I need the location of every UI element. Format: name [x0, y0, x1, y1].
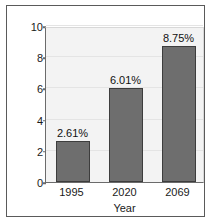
bar-1995 [56, 141, 90, 182]
bar-2020 [109, 88, 143, 182]
y-tick-label: 4 [17, 115, 43, 126]
x-tick-label: 2069 [152, 186, 204, 199]
y-tick-label: 10 [17, 22, 43, 33]
plot-area: 2.61%6.01%8.75% [45, 27, 204, 183]
y-tick-label: 2 [17, 146, 43, 157]
y-tick-label: 6 [17, 84, 43, 95]
y-tick-label: 0 [17, 178, 43, 189]
chart-figure: 0246810 2.61%6.01%8.75% 199520202069 Yea… [0, 0, 211, 223]
gridline [46, 25, 203, 26]
bar-value-label: 2.61% [47, 127, 99, 139]
x-axis: 199520202069 [45, 186, 204, 202]
bar-value-label: 6.01% [100, 74, 152, 86]
x-axis-title: Year [45, 202, 204, 215]
bar-2069 [162, 46, 196, 183]
x-tick-label: 1995 [46, 186, 98, 199]
y-axis: 0246810 [13, 27, 43, 183]
x-tick-label: 2020 [99, 186, 151, 199]
bar-value-label: 8.75% [153, 32, 205, 44]
y-tick-label: 8 [17, 53, 43, 64]
figure-frame-border: 0246810 2.61%6.01%8.75% 199520202069 Yea… [6, 5, 205, 217]
